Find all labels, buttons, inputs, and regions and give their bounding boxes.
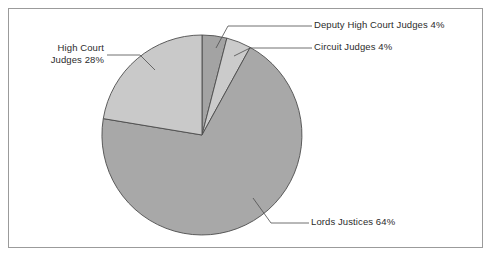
pie-chart-figure: Deputy High Court Judges 4% Circuit Judg… — [0, 0, 494, 262]
pie-label-high-court-judges-line2: Judges 28% — [22, 54, 104, 66]
pie-chart-graphic — [0, 0, 494, 262]
pie-label-circuit-judges: Circuit Judges 4% — [314, 41, 392, 53]
pie-label-deputy-high-court-judges: Deputy High Court Judges 4% — [314, 19, 445, 31]
pie-label-high-court-judges-line1: High Court — [22, 42, 104, 54]
pie-label-lords-justices: Lords Justices 64% — [311, 216, 395, 228]
pie-slice-high-court-judges — [103, 35, 202, 135]
pie-label-high-court-judges: High Court Judges 28% — [22, 42, 104, 65]
